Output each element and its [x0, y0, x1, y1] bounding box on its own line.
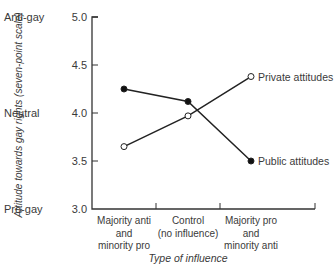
open-circle-marker [248, 74, 254, 80]
x-category-label: Majority pro [225, 215, 278, 226]
open-circle-marker [121, 144, 127, 150]
y-axis-title: Attitude towards gay rights (seven-point… [13, 12, 24, 218]
x-category-label: minority anti [224, 240, 278, 251]
series-label: Private attitudes [258, 71, 333, 83]
x-category-label: (no influence) [158, 228, 219, 239]
axis-labels: 3.0Pro-gay3.54.0Neutral4.55.0Anti-gayMaj… [4, 11, 333, 264]
y-tick-label: 3.5 [72, 155, 87, 167]
filled-circle-marker [185, 98, 191, 104]
line-chart: 3.0Pro-gay3.54.0Neutral4.55.0Anti-gayMaj… [0, 0, 334, 271]
x-category-label: minority pro [98, 240, 151, 251]
axis-lines [92, 17, 315, 209]
x-axis-title: Type of influence [148, 252, 227, 264]
filled-circle-marker [248, 158, 254, 164]
series-lines [121, 74, 254, 164]
filled-circle-marker [121, 86, 127, 92]
series-label: Public attitudes [258, 155, 329, 167]
y-tick-label: 4.0 [72, 107, 87, 119]
y-tick-label: 3.0 [72, 203, 87, 215]
series-line [124, 77, 251, 147]
x-category-label: and [243, 228, 260, 239]
open-circle-marker [185, 113, 191, 119]
x-category-label: Control [172, 215, 204, 226]
y-tick-label: 4.5 [72, 59, 87, 71]
y-tick-label: 5.0 [72, 11, 87, 23]
x-category-label: Majority anti [97, 215, 151, 226]
x-category-label: and [116, 228, 133, 239]
y-annotation: Anti-gay [4, 11, 45, 23]
axes [92, 17, 315, 209]
